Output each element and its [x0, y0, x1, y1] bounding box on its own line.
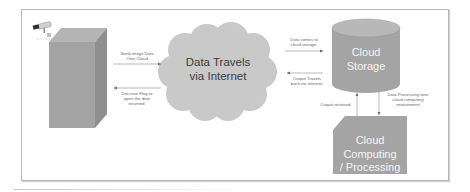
edge-label-output-returned: Output returned.	[316, 102, 356, 107]
edge-label-send-image: Send image Data Over Cloud	[113, 51, 161, 61]
edge-label-data-processing: Data Processing over cloud computing env…	[381, 92, 435, 108]
building-front-face	[49, 42, 95, 128]
cloud-computing-label: Cloud Computing / Processing	[333, 134, 407, 175]
edge-label-data-to-storage: Data comes to cloud storage.	[283, 37, 325, 47]
cloud-storage-label: Cloud Storage	[332, 46, 400, 73]
building-side-face	[95, 28, 107, 128]
security-camera-icon	[33, 21, 52, 39]
building-node	[49, 28, 107, 128]
edge-label-decision-flag: Decision Flag to open the door returned.	[113, 91, 161, 107]
internet-cloud-label: Data Travels via Internet	[175, 56, 261, 83]
edge-label-output-back: Output Travels back via internet.	[285, 76, 329, 86]
